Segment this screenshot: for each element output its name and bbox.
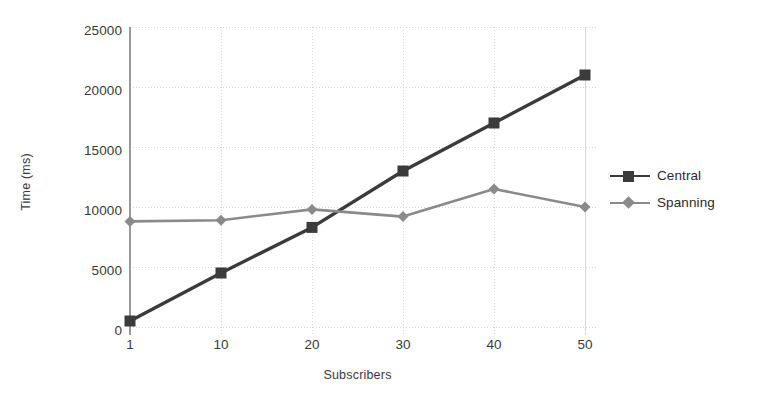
legend-key-central [608, 168, 652, 184]
x-tick-label: 1 [100, 338, 160, 352]
series-line-central [130, 75, 585, 321]
data-point-spanning-40 [489, 184, 500, 195]
gridlines [130, 27, 597, 335]
y-tick-label: 15000 [44, 144, 122, 158]
chart-container: 25000 20000 15000 10000 5000 0 1 10 20 3… [0, 0, 770, 407]
data-point-spanning-10 [216, 215, 227, 226]
series-layer [125, 70, 591, 327]
x-tick-label: 40 [464, 338, 524, 352]
axis-lines [130, 27, 585, 335]
data-point-central-30 [398, 166, 409, 177]
data-point-spanning-30 [398, 211, 409, 222]
y-tick-label: 10000 [44, 204, 122, 218]
legend-label-central: Central [652, 168, 701, 183]
data-point-spanning-20 [307, 204, 318, 215]
data-point-central-50 [580, 70, 591, 81]
data-point-spanning-50 [580, 202, 591, 213]
series-line-spanning [130, 189, 585, 221]
chart-legend: Central Spanning [608, 162, 758, 216]
y-axis-title: Time (ms) [19, 122, 33, 242]
data-point-central-1 [125, 316, 136, 327]
legend-label-spanning: Spanning [652, 195, 715, 210]
y-tick-label: 5000 [44, 264, 122, 278]
y-tick-label: 20000 [44, 84, 122, 98]
legend-item-central[interactable]: Central [608, 162, 758, 189]
y-tick-label: 0 [44, 324, 122, 338]
data-point-central-10 [216, 268, 227, 279]
x-tick-label: 50 [555, 338, 615, 352]
square-marker-icon [623, 171, 634, 182]
x-axis-title: Subscribers [235, 368, 480, 382]
legend-item-spanning[interactable]: Spanning [608, 189, 758, 216]
legend-key-spanning [608, 195, 652, 211]
data-point-spanning-1 [125, 216, 136, 227]
x-tick-label: 30 [373, 338, 433, 352]
y-tick-label: 25000 [44, 24, 122, 38]
data-point-central-20 [307, 222, 318, 233]
x-tick-label: 10 [191, 338, 251, 352]
diamond-marker-icon [622, 196, 635, 209]
x-tick-label: 20 [282, 338, 342, 352]
data-point-central-40 [489, 118, 500, 129]
